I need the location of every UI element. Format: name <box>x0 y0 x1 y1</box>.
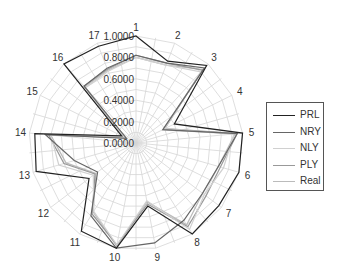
axis-label: 11 <box>70 237 81 248</box>
axis-label: 10 <box>109 252 121 263</box>
legend-label: Real <box>300 174 321 188</box>
ring-label: 1.0000 <box>103 31 134 42</box>
axis-label: 14 <box>15 127 27 138</box>
axis-label: 3 <box>211 52 217 63</box>
legend-swatch <box>273 181 295 182</box>
legend-item: Real <box>271 174 323 188</box>
legend-swatch <box>273 165 295 166</box>
axis-label: 1 <box>133 22 139 33</box>
axis-label: 2 <box>175 30 181 41</box>
ring-label: 0.6000 <box>103 74 134 85</box>
axis-label: 7 <box>226 208 232 219</box>
legend-item: PRL <box>271 108 323 122</box>
legend: PRLNRYNLYPLYReal <box>266 102 324 191</box>
legend-swatch <box>273 148 295 149</box>
ring-label: 0.0000 <box>103 138 134 149</box>
legend-swatch <box>273 132 295 133</box>
axis-label: 15 <box>27 86 39 97</box>
axis-label: 17 <box>89 30 101 41</box>
legend-swatch <box>273 115 295 116</box>
axis-label: 13 <box>19 170 31 181</box>
legend-item: PLY <box>271 158 323 172</box>
legend-label: PRL <box>300 108 319 122</box>
axis-label: 5 <box>249 127 255 138</box>
axis-label: 4 <box>237 86 243 97</box>
legend-item: NRY <box>271 125 323 139</box>
ring-label: 0.2000 <box>103 117 134 128</box>
legend-label: NLY <box>300 141 319 155</box>
axis-label: 16 <box>52 52 64 63</box>
legend-item: NLY <box>271 141 323 155</box>
legend-label: PLY <box>300 158 318 172</box>
axis-label: 8 <box>194 237 200 248</box>
axis-label: 6 <box>245 170 251 181</box>
ring-label: 0.8000 <box>103 52 134 63</box>
legend-label: NRY <box>300 125 321 139</box>
ring-label: 0.4000 <box>103 95 134 106</box>
grid-spoke <box>64 143 136 222</box>
axis-label: 12 <box>38 208 50 219</box>
axis-label: 9 <box>155 252 161 263</box>
